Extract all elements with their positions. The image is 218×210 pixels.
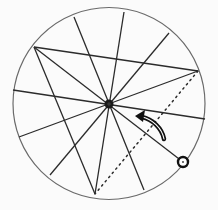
diagram-canvas xyxy=(0,0,218,210)
rotation-arrow-icon xyxy=(135,110,164,139)
pivot-point xyxy=(105,100,114,109)
drag-handle-center-icon xyxy=(182,161,184,163)
arrow-head-icon xyxy=(135,110,145,122)
rotating-lines-diagram xyxy=(0,0,218,210)
rotation-handle[interactable] xyxy=(178,157,188,167)
